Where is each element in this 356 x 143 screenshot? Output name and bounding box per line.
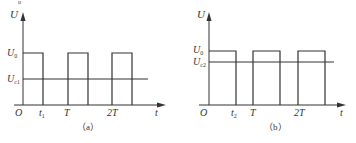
tick-2T-b: 2T [294,107,306,118]
u0-label-b: U0 [193,44,203,56]
x-axis-label-a: t [155,107,158,118]
tick-t2-b: t2 [231,107,237,119]
caption-b: （b） [264,122,287,132]
y-axis-arrow-icon [21,12,26,21]
panel-b: U U0 Uc2 O t2 T 2T t （b） [193,8,346,132]
figure-marker: u [18,0,21,5]
tick-2T-a: 2T [107,107,119,118]
uc2-label-b: Uc2 [193,56,206,68]
panel-a: U U0 Uc1 O t1 T 2T t （a） [7,8,166,132]
y-axis-arrow-icon [207,12,212,21]
caption-a: （a） [77,122,99,132]
uc1-label-a: Uc1 [7,73,20,85]
tick-T-a: T [64,107,71,118]
x-axis-label-b: t [340,107,343,118]
origin-label-b: O [200,107,207,118]
origin-label-a: O [15,107,22,118]
x-axis-arrow-icon [157,103,166,108]
u0-label-a: U0 [7,47,17,59]
waveform-b [209,51,325,105]
y-axis-label-b: U [197,8,206,20]
tick-t1-a: t1 [39,107,45,119]
y-axis-label-a: U [10,8,19,20]
tick-T-b: T [250,107,257,118]
